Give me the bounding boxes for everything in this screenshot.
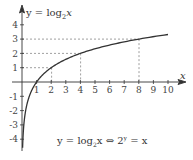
x-tick-label: 9 [151, 85, 157, 95]
x-tick-label: 4 [78, 85, 84, 95]
caption: y = log2x ⇔ 2y = x [56, 134, 148, 148]
x-tick-label: 7 [121, 85, 127, 95]
y-axis-title: y = log2x [25, 7, 72, 21]
y-axis-arrow-icon [20, 5, 25, 13]
x-tick-label: 6 [107, 85, 113, 95]
x-tick-label: 2 [48, 85, 54, 95]
y-tick-label: -2 [9, 106, 18, 116]
guide-lines [22, 39, 139, 82]
y-tick-label: 3 [12, 34, 18, 44]
x-tick-labels: 12345678910 [34, 85, 174, 95]
y-tick-label: 2 [12, 49, 18, 59]
x-tick-label: 5 [92, 85, 98, 95]
axes [12, 5, 186, 151]
x-tick-label: 1 [34, 85, 40, 95]
x-tick-label: 8 [136, 85, 142, 95]
x-axis-label: x [180, 70, 186, 81]
y-tick-label: -1 [9, 92, 18, 102]
x-tick-label: 3 [63, 85, 69, 95]
y-tick-label: 4 [12, 20, 18, 30]
y-tick-label: 1 [12, 63, 18, 73]
log-chart: 12345678910 4321-1-2-3-4 y = log2x x y =… [0, 0, 193, 160]
y-tick-label: -4 [9, 134, 18, 144]
y-tick-label: -3 [9, 120, 18, 130]
x-tick-label: 10 [162, 85, 174, 95]
